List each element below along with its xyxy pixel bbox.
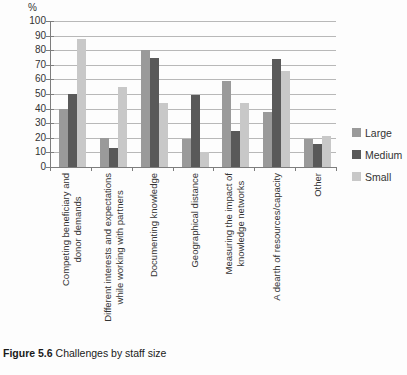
y-tick-label-20: 20: [12, 132, 46, 144]
gridline-60: [50, 79, 336, 80]
bar-medium-category-2: [109, 148, 118, 167]
y-tick-label-0: 0: [12, 161, 46, 173]
y-tick-label-60: 60: [12, 73, 46, 85]
y-axis-unit-label: %: [10, 2, 37, 13]
y-tick-label-90: 90: [12, 30, 46, 42]
bar-large-category-5: [222, 81, 231, 167]
x-axis-line: [50, 167, 337, 168]
x-tick-3: [173, 167, 174, 171]
x-category-label-text: Geographical distance: [189, 173, 201, 268]
bar-medium-category-6: [272, 59, 281, 167]
bar-small-category-6: [281, 71, 290, 167]
figure-number: Figure 5.6: [3, 347, 53, 359]
legend-label-small: Small: [365, 171, 391, 183]
y-tick-label-50: 50: [12, 88, 46, 100]
bar-medium-category-5: [231, 131, 240, 168]
x-category-label-text: Documenting knowledge: [148, 173, 160, 277]
legend-swatch-small: [352, 172, 361, 181]
y-axis-line: [50, 21, 51, 167]
bar-small-category-7: [322, 136, 331, 167]
x-tick-4: [213, 167, 214, 171]
x-tick-1: [91, 167, 92, 171]
bar-large-category-3: [141, 50, 150, 167]
legend-item-medium: Medium: [352, 149, 402, 160]
bar-small-category-3: [159, 103, 168, 167]
x-tick-7: [336, 167, 337, 171]
page-background: % 0102030405060708090100Competing benefi…: [0, 0, 407, 375]
bar-medium-category-1: [68, 94, 77, 167]
bar-large-category-1: [59, 109, 68, 167]
bar-medium-category-7: [313, 144, 322, 167]
y-tick-label-80: 80: [12, 44, 46, 56]
bar-small-category-4: [200, 152, 209, 167]
bar-large-category-4: [182, 139, 191, 167]
legend-label-medium: Medium: [365, 149, 402, 161]
bar-small-category-1: [77, 39, 86, 167]
x-tick-5: [254, 167, 255, 171]
bar-medium-category-3: [150, 58, 159, 168]
x-tick-0: [50, 167, 51, 171]
y-tick-label-40: 40: [12, 103, 46, 115]
x-category-label-text: Measuring the impact of knowledge networ…: [224, 173, 248, 274]
figure-title: Challenges by staff size: [56, 347, 167, 359]
gridline-70: [50, 65, 336, 66]
x-category-label-text: Different interests and expectations whi…: [101, 173, 125, 322]
gridline-80: [50, 50, 336, 51]
gridline-100: [50, 21, 336, 22]
legend: LargeMediumSmall: [352, 127, 402, 182]
x-tick-6: [295, 167, 296, 171]
y-tick-label-30: 30: [12, 117, 46, 129]
x-category-label-text: Other: [312, 173, 324, 197]
legend-label-large: Large: [365, 127, 392, 139]
legend-swatch-medium: [352, 150, 361, 159]
figure-caption: Figure 5.6Challenges by staff size: [3, 347, 166, 359]
y-tick-label-70: 70: [12, 59, 46, 71]
bar-medium-category-4: [191, 95, 200, 167]
bar-small-category-5: [240, 103, 249, 167]
gridline-90: [50, 36, 336, 37]
bar-small-category-2: [118, 87, 127, 167]
legend-swatch-large: [352, 128, 361, 137]
challenges-bar-chart: % 0102030405060708090100Competing benefi…: [0, 0, 407, 375]
bar-large-category-6: [263, 112, 272, 167]
x-category-label-text: A dearth of resources/capacity: [271, 173, 283, 301]
bar-large-category-7: [304, 139, 313, 167]
legend-item-large: Large: [352, 127, 402, 138]
legend-item-small: Small: [352, 171, 402, 182]
bar-large-category-2: [100, 138, 109, 167]
x-tick-2: [132, 167, 133, 171]
y-tick-label-100: 100: [12, 15, 46, 27]
x-category-label-text: Competing beneficiary and donor demands: [60, 173, 84, 286]
y-tick-label-10: 10: [12, 146, 46, 158]
